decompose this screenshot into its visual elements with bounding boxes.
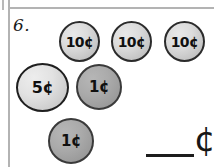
coin-penny-2-label: 1¢ (61, 132, 81, 150)
coin-dime-3-label: 10¢ (171, 33, 199, 49)
coin-penny-1-label: 1¢ (89, 78, 109, 96)
coin-nickel-1: 5¢ (16, 63, 69, 112)
coin-penny-1: 1¢ (76, 64, 122, 110)
coin-penny-2: 1¢ (48, 118, 94, 164)
page-margin-line-outer (2, 0, 4, 10)
coin-dime-2: 10¢ (111, 21, 152, 62)
answer-blank-line[interactable] (146, 154, 194, 157)
coin-dime-1-label: 10¢ (66, 33, 94, 49)
coin-nickel-1-label: 5¢ (32, 78, 53, 97)
page-rule-line-top (9, 7, 214, 9)
page-margin-line-inner (8, 0, 10, 167)
coin-dime-2-label: 10¢ (118, 33, 146, 49)
problem-number: 6. (13, 17, 30, 34)
cent-symbol: ¢ (194, 122, 214, 156)
coin-dime-1: 10¢ (59, 21, 100, 62)
worksheet-problem: 6. 10¢ 10¢ 10¢ 5¢ 1¢ 1¢ ¢ (0, 0, 214, 167)
coin-dime-3: 10¢ (164, 21, 205, 62)
